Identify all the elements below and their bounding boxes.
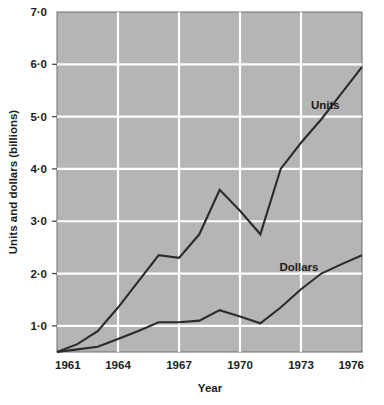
x-tick-label: 1964 <box>105 359 131 371</box>
x-tick-label: 1976 <box>338 359 364 371</box>
series-label-units: Units <box>311 99 340 111</box>
plot-area-background <box>57 12 362 352</box>
y-tick-label: 1·0 <box>30 320 47 332</box>
x-tick-label: 1970 <box>227 359 253 371</box>
y-tick-label: 4·0 <box>30 163 47 175</box>
x-tick-label: 1961 <box>55 359 81 371</box>
y-axis-ticks <box>52 64 57 326</box>
y-tick-label: 7·0 <box>30 6 47 18</box>
x-axis-tick-labels: 196119641967197019731976 <box>55 359 364 371</box>
series-label-dollars: Dollars <box>279 261 318 273</box>
chart-figure: 1·02·03·04·05·06·07·0 196119641967197019… <box>0 0 384 405</box>
x-tick-label: 1973 <box>288 359 314 371</box>
x-tick-label: 1967 <box>166 359 192 371</box>
line-chart: 1·02·03·04·05·06·07·0 196119641967197019… <box>0 0 384 405</box>
y-tick-label: 5·0 <box>30 111 47 123</box>
y-axis-tick-labels: 1·02·03·04·05·06·07·0 <box>30 6 47 332</box>
x-axis-title: Year <box>198 382 223 394</box>
y-tick-label: 3·0 <box>30 215 47 227</box>
y-axis-title: Units and dollars (billions) <box>7 110 19 255</box>
y-tick-label: 2·0 <box>30 268 47 280</box>
y-tick-label: 6·0 <box>30 58 47 70</box>
